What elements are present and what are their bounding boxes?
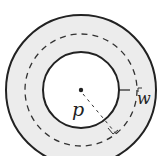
center-point	[79, 88, 83, 92]
center-label: p	[72, 98, 84, 120]
width-label: w	[137, 89, 151, 108]
annulus-diagram: p w	[0, 0, 165, 156]
